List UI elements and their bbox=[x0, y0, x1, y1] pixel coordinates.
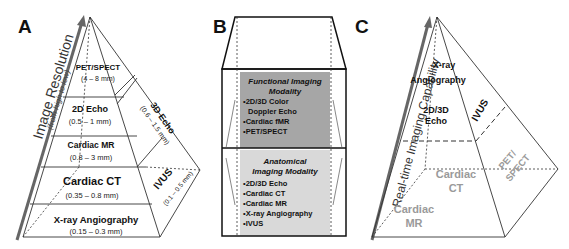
c-label-mr-line1: Cardiac bbox=[394, 203, 434, 215]
anatomical-item: •IVUS bbox=[243, 219, 263, 228]
panel-a: A Image Resolution (from high to low) bbox=[17, 15, 200, 240]
anatomical-title-line2: Imaging Modality bbox=[252, 167, 318, 176]
c-label-mr-line2: MR bbox=[405, 217, 422, 229]
panel-a-letter: A bbox=[18, 16, 32, 37]
tier-2d-echo: 2D Echo bbox=[72, 104, 109, 114]
panel-c: C Real-time Imaging Capability X-ray Ang… bbox=[355, 16, 558, 240]
tier-xray-angiography: X-ray Angiography bbox=[54, 214, 139, 225]
c-label-echo-line2: Echo bbox=[425, 116, 448, 126]
c-label-echo-line1: 2D/3D bbox=[423, 105, 449, 115]
anatomical-item: •X-ray Angiography bbox=[243, 209, 313, 218]
functional-title-line2: Modality bbox=[269, 87, 302, 96]
tier-cardiac-mr: Cardiac MR bbox=[68, 140, 115, 150]
panel-c-letter: C bbox=[355, 16, 369, 37]
tier-2d-echo-range: (0.5 – 1 mm) bbox=[69, 117, 112, 126]
c-label-ivus: IVUS bbox=[469, 97, 490, 123]
functional-item: Doppler Echo bbox=[248, 107, 297, 116]
functional-item: •PET/SPECT bbox=[243, 127, 288, 136]
panel-b-letter: B bbox=[213, 16, 227, 37]
tier-cardiac-ct: Cardiac CT bbox=[63, 175, 121, 187]
functional-title-line1: Functional Imaging bbox=[248, 77, 321, 86]
anatomical-title-line1: Anatomical bbox=[262, 157, 307, 166]
c-label-xray-line2: Angiography bbox=[410, 75, 466, 85]
functional-item: •2D/3D Color bbox=[243, 97, 289, 106]
c-label-ct-line1: Cardiac bbox=[436, 168, 476, 180]
side-tier-ivus: IVUS bbox=[151, 166, 175, 191]
functional-item: •Cardiac fMR bbox=[243, 117, 290, 126]
anatomical-item: •2D/3D Echo bbox=[243, 179, 288, 188]
tier-pet-spect: PET/SPECT bbox=[76, 63, 121, 72]
c-label-xray-line1: X-ray bbox=[433, 60, 456, 70]
anatomical-item: •Cardiac MR bbox=[243, 199, 287, 208]
c-label-ct-line2: CT bbox=[449, 182, 464, 194]
tier-xray-angiography-range: (0.15 – 0.3 mm) bbox=[70, 227, 123, 236]
prism-top bbox=[222, 17, 346, 69]
modality-comparison-diagram: A Image Resolution (from high to low) bbox=[0, 0, 569, 249]
tier-cardiac-mr-range: (0.8 – 3 mm) bbox=[70, 153, 113, 162]
tier-cardiac-ct-range: (0.35 – 0.8 mm) bbox=[66, 191, 119, 200]
tier-pet-spect-range: (4 – 8 mm) bbox=[81, 75, 115, 83]
panel-b: B Functional Imaging Modality Anatomical… bbox=[213, 16, 346, 236]
anatomical-item: •Cardiac CT bbox=[243, 189, 286, 198]
